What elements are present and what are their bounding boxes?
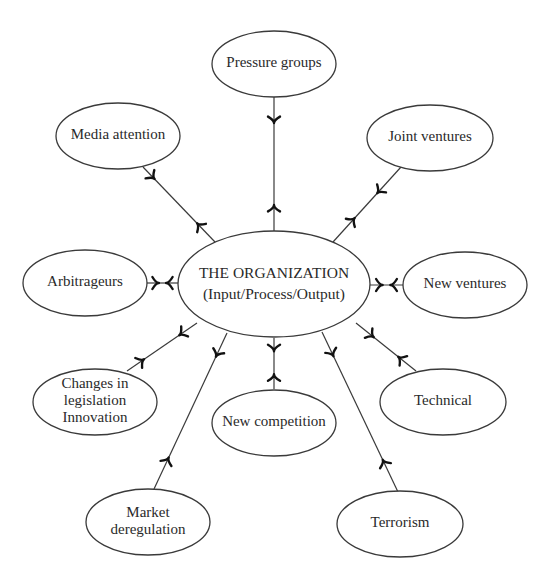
node-label: Terrorism (371, 514, 430, 530)
node-label: legislation (64, 392, 127, 408)
node-technical: Technical (380, 369, 506, 435)
node-label: Media attention (71, 126, 166, 142)
central-node: THE ORGANIZATION (Input/Process/Output) (178, 231, 370, 337)
connector-new-competition (268, 338, 280, 389)
node-pressure-groups: Pressure groups (212, 31, 336, 97)
node-label: Market (126, 504, 170, 520)
connector-line (127, 323, 197, 371)
node-label: New competition (222, 413, 326, 429)
connector-technical (356, 323, 416, 371)
connector-new-ventures (370, 279, 403, 291)
node-market-deregulation: Marketderegulation (86, 489, 210, 555)
node-label: Technical (414, 392, 472, 408)
connector-media-attention (143, 167, 215, 242)
node-label: New ventures (424, 275, 507, 291)
connector-changes-in-legislation-innovation (127, 323, 197, 371)
node-new-ventures: New ventures (403, 252, 527, 318)
node-label: Changes in (61, 375, 129, 391)
node-arbitrageurs: Arbitrageurs (23, 250, 147, 316)
organization-subtitle: (Input/Process/Output) (203, 285, 345, 303)
connector-pressure-groups (268, 97, 280, 231)
connector-joint-ventures (333, 167, 401, 242)
node-label: deregulation (111, 521, 186, 537)
connector-line (333, 167, 401, 242)
node-label: Joint ventures (388, 128, 472, 144)
organization-environment-diagram: Pressure groupsMedia attentionJoint vent… (0, 0, 552, 579)
node-new-competition: New competition (212, 390, 336, 456)
connector-arbitrageurs (147, 277, 178, 289)
node-label: Pressure groups (226, 54, 322, 70)
node-joint-ventures: Joint ventures (367, 105, 493, 171)
node-label: Innovation (63, 409, 128, 425)
node-changes-in-legislation-innovation: Changes inlegislationInnovation (33, 369, 157, 435)
node-media-attention: Media attention (56, 103, 180, 169)
organization-title: THE ORGANIZATION (199, 264, 349, 281)
node-terrorism: Terrorism (337, 491, 463, 557)
node-label: Arbitrageurs (47, 273, 123, 289)
connector-line (356, 323, 416, 371)
